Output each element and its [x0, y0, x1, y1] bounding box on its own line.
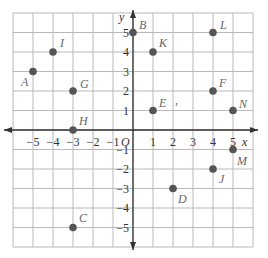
- x-tick-label: −5: [27, 135, 40, 149]
- point-H: [69, 126, 77, 134]
- point-C: [69, 224, 77, 232]
- point-J: [209, 165, 217, 173]
- point-I: [49, 48, 57, 56]
- y-tick-label: 1: [123, 104, 129, 118]
- stray-mark: ,: [175, 93, 178, 107]
- y-tick-label: −3: [116, 182, 129, 196]
- points: ABCDEFGHIJKLMN,: [20, 18, 248, 232]
- x-axis-arrow-left-icon: [4, 127, 12, 133]
- x-tick-label: −4: [47, 135, 60, 149]
- y-tick-label: 5: [123, 26, 129, 40]
- y-axis-arrow-up-icon: [130, 10, 136, 18]
- x-tick-label: −3: [67, 135, 80, 149]
- point-label-B: B: [139, 18, 147, 32]
- point-E: [149, 107, 157, 115]
- point-A: [29, 68, 37, 76]
- point-label-J: J: [219, 172, 225, 186]
- point-label-M: M: [236, 154, 248, 168]
- x-tick-label: 4: [210, 135, 216, 149]
- point-D: [169, 185, 177, 193]
- y-tick-label: 4: [123, 45, 129, 59]
- x-tick-label: 2: [170, 135, 176, 149]
- point-B: [129, 29, 137, 37]
- x-tick-label: −2: [87, 135, 100, 149]
- x-tick-label: 3: [190, 135, 196, 149]
- axes: xyO: [4, 10, 258, 250]
- point-L: [209, 29, 217, 37]
- point-label-D: D: [177, 192, 187, 206]
- point-label-N: N: [238, 97, 248, 111]
- point-label-G: G: [80, 77, 89, 91]
- point-label-E: E: [158, 96, 167, 110]
- y-axis-label: y: [118, 10, 125, 24]
- y-tick-label: −5: [116, 221, 129, 235]
- point-label-L: L: [219, 18, 227, 32]
- point-M: [229, 146, 237, 154]
- coordinate-plane: xyO −5−4−3−2−11234554321−1−2−3−4−5 ABCDE…: [0, 0, 268, 258]
- x-tick-label: 1: [150, 135, 156, 149]
- point-label-H: H: [78, 114, 89, 128]
- point-label-C: C: [79, 211, 88, 225]
- y-tick-label: −1: [116, 143, 129, 157]
- point-K: [149, 48, 157, 56]
- y-tick-label: 3: [123, 65, 129, 79]
- point-label-F: F: [218, 76, 227, 90]
- y-axis-arrow-down-icon: [130, 242, 136, 250]
- y-tick-label: −4: [116, 201, 129, 215]
- point-label-K: K: [158, 36, 168, 50]
- x-axis-arrow-right-icon: [250, 127, 258, 133]
- y-tick-label: −2: [116, 162, 129, 176]
- point-G: [69, 87, 77, 95]
- y-tick-label: 2: [123, 84, 129, 98]
- point-N: [229, 107, 237, 115]
- point-label-A: A: [20, 75, 29, 89]
- point-label-I: I: [59, 36, 65, 50]
- point-F: [209, 87, 217, 95]
- x-axis-label: x: [241, 135, 248, 149]
